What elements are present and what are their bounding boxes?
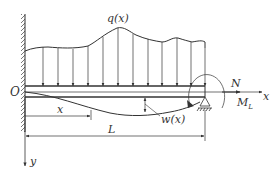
- pin-support: [197, 97, 212, 111]
- beam-diagram: q(x) O N x ML x L w(x) y: [0, 0, 271, 176]
- x-axis-label: x: [263, 91, 269, 102]
- position-label: x: [57, 104, 63, 115]
- load-curve: [25, 28, 205, 51]
- fixed-wall: [21, 14, 25, 132]
- load-label: q(x): [107, 13, 129, 24]
- deflection-label: w(x): [161, 114, 185, 125]
- moment-label: ML: [237, 97, 253, 111]
- length-label: L: [108, 124, 115, 135]
- beam: [25, 86, 205, 97]
- origin-label: O: [10, 86, 20, 98]
- deflection-curve: [25, 92, 200, 116]
- y-axis-label: y: [30, 156, 36, 167]
- moment-arc: [189, 75, 225, 108]
- moment-arrowhead: [187, 100, 194, 108]
- axial-force-label: N: [231, 78, 241, 89]
- load-arrows: [43, 28, 205, 86]
